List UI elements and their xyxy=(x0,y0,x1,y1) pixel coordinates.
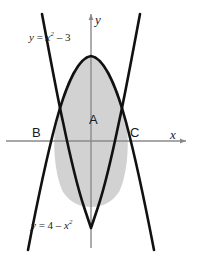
equation-down-lead: 4 – xyxy=(48,219,65,231)
equation-up-equals: = xyxy=(34,31,46,43)
parabola-figure: y = x2 – 3 y = 4 – x2 y x A B C xyxy=(0,0,197,262)
y-axis-label: y xyxy=(95,13,101,26)
equation-down-equals: = xyxy=(36,219,48,231)
y-axis-arrow-icon xyxy=(89,14,94,20)
x-axis-arrow-icon xyxy=(180,139,186,144)
region-label-a: A xyxy=(89,113,98,126)
equation-label-upward-parabola: y = x2 – 3 xyxy=(29,31,70,43)
point-label-c: C xyxy=(130,126,139,139)
equation-down-exponent: 2 xyxy=(69,218,72,225)
equation-up-tail: – 3 xyxy=(54,31,71,43)
x-axis-label: x xyxy=(170,128,176,141)
equation-label-downward-parabola: y = 4 – x2 xyxy=(31,219,72,231)
point-label-b: B xyxy=(32,126,41,139)
